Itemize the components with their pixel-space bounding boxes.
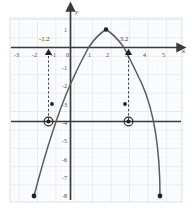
svg-text:5: 5 xyxy=(162,51,165,58)
left-endpoint xyxy=(32,194,37,199)
svg-text:1: 1 xyxy=(88,51,91,58)
svg-text:0: 0 xyxy=(66,51,69,58)
x-tick-labels: -3 -2 -1 0 1 2 3 4 5 xyxy=(14,51,165,58)
coordinate-plane: x y -3 -2 -1 0 1 2 3 4 5 1 -1 -2 -3 -4 -… xyxy=(0,0,195,209)
graph-figure: x y -3 -2 -1 0 1 2 3 4 5 1 -1 -2 -3 -4 -… xyxy=(0,0,195,209)
x-axis-label: x xyxy=(181,47,186,55)
svg-text:1: 1 xyxy=(64,26,67,33)
svg-text:-1: -1 xyxy=(62,64,67,71)
vertex-point xyxy=(104,27,108,31)
svg-text:4: 4 xyxy=(143,51,146,58)
right-endpoint xyxy=(158,194,163,199)
left-solution-label: -1.2 xyxy=(39,35,49,42)
svg-text:-3: -3 xyxy=(14,51,19,58)
svg-text:-2: -2 xyxy=(62,82,67,89)
svg-text:2: 2 xyxy=(106,51,109,58)
svg-text:-1: -1 xyxy=(51,51,56,58)
right-curve-point xyxy=(123,102,127,106)
svg-text:-7: -7 xyxy=(62,174,67,181)
y-axis-label: y xyxy=(74,8,79,16)
svg-text:-4: -4 xyxy=(62,119,67,126)
right-solution-label: 3.2 xyxy=(120,35,128,42)
svg-text:-2: -2 xyxy=(32,51,37,58)
grid-background xyxy=(10,18,182,203)
svg-text:-8: -8 xyxy=(62,192,67,199)
svg-text:-5: -5 xyxy=(62,137,67,144)
svg-text:-6: -6 xyxy=(62,156,67,163)
left-curve-point xyxy=(50,102,54,106)
